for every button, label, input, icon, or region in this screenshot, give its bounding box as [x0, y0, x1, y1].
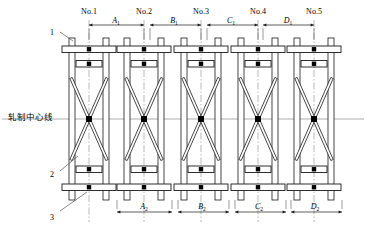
roll-hub: [312, 185, 316, 189]
roll-hub: [312, 167, 316, 171]
roll-hub: [142, 167, 146, 171]
stand-s3: [174, 20, 228, 222]
callout-label-1: 1: [50, 29, 54, 37]
dim-label-B1: B1: [170, 17, 178, 25]
stand-s5: [287, 20, 341, 222]
callout-leader-1: [60, 32, 73, 41]
roll-hub: [87, 185, 91, 189]
dim-label-C2: C2: [255, 203, 263, 211]
roll-hub: [199, 167, 203, 171]
dim-A1-arrow-left: [89, 24, 92, 27]
dim-B2-arrow-right: [226, 211, 229, 214]
dim-B2-arrow-left: [178, 211, 181, 214]
roll-hub: [256, 185, 260, 189]
stand-label-s1: No.1: [81, 8, 97, 16]
cross-pivot-hub: [141, 116, 147, 122]
diagram-canvas: [0, 0, 366, 234]
dim-D1-arrow-left: [263, 24, 266, 27]
dim-A1-arrow-right: [141, 24, 144, 27]
frame-post: [69, 38, 75, 200]
dim-label-C1: C1: [227, 17, 235, 25]
dim-D2-arrow-left: [291, 211, 294, 214]
roll-hub: [256, 167, 260, 171]
roll-hub: [256, 47, 260, 51]
callout-label-3: 3: [50, 214, 54, 222]
dim-B1-arrow-right: [198, 24, 201, 27]
dim-label-D2: D2: [311, 203, 320, 211]
frame-post: [103, 38, 109, 200]
roll-hub: [256, 62, 260, 66]
dim-C1-arrow-left: [207, 24, 210, 27]
roll-hub: [87, 167, 91, 171]
dim-label-D1: D1: [284, 17, 293, 25]
stand-s4: [231, 20, 285, 222]
stand-s1: [62, 20, 116, 222]
dim-B1-arrow-left: [150, 24, 153, 27]
stand-label-s3: No.3: [193, 8, 209, 16]
roll-hub: [142, 47, 146, 51]
frame-post: [238, 38, 244, 200]
cross-pivot-hub: [255, 116, 261, 122]
stand-label-s2: No.2: [136, 8, 152, 16]
roll-hub: [199, 47, 203, 51]
roll-hub: [199, 62, 203, 66]
roll-hub: [87, 47, 91, 51]
rolling-centerline-label: 轧制中心线: [8, 113, 53, 122]
stand-label-s5: No.5: [306, 8, 322, 16]
cross-pivot-hub: [86, 116, 92, 122]
frame-post: [328, 38, 334, 200]
rolling-mill-diagram: No.1No.2No.3No.4No.5A1B1C1D1A2B2C2D2123轧…: [0, 0, 366, 234]
dim-label-B2: B2: [198, 203, 206, 211]
callout-label-2: 2: [50, 171, 54, 179]
roll-hub: [199, 185, 203, 189]
cross-pivot-hub: [311, 116, 317, 122]
dim-D2-arrow-right: [339, 211, 342, 214]
frame-post: [181, 38, 187, 200]
dim-label-A1: A1: [112, 17, 120, 25]
dim-C2-arrow-left: [235, 211, 238, 214]
roll-hub: [142, 185, 146, 189]
frame-post: [294, 38, 300, 200]
dim-D1-arrow-right: [311, 24, 314, 27]
roll-hub: [312, 62, 316, 66]
dim-A2-arrow-left: [117, 211, 120, 214]
frame-post: [158, 38, 164, 200]
stand-s2: [117, 20, 171, 222]
dim-label-A2: A2: [140, 203, 148, 211]
dim-C1-arrow-right: [255, 24, 258, 27]
roll-hub: [312, 47, 316, 51]
roll-hub: [142, 62, 146, 66]
cross-pivot-hub: [198, 116, 204, 122]
dim-A2-arrow-right: [169, 211, 172, 214]
frame-post: [272, 38, 278, 200]
stand-label-s4: No.4: [250, 8, 266, 16]
roll-hub: [87, 62, 91, 66]
dim-C2-arrow-right: [283, 211, 286, 214]
frame-post: [215, 38, 221, 200]
frame-post: [124, 38, 130, 200]
